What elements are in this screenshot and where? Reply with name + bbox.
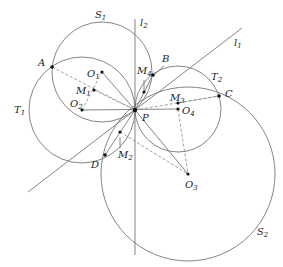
point-O1 (100, 70, 103, 73)
point-P (133, 108, 137, 112)
label-O2: O2 (70, 98, 83, 111)
label-M1: M1 (75, 85, 91, 98)
point-B (151, 73, 155, 77)
arrow-B (155, 66, 164, 74)
label-M2: M2 (117, 149, 133, 162)
label-O4: O4 (182, 105, 195, 118)
label-O1: O1 (87, 68, 100, 81)
label-A: A (37, 57, 45, 68)
label-S2: S2 (257, 226, 269, 239)
label-S1: S1 (95, 9, 106, 22)
point-M1 (92, 88, 95, 91)
label-l1: l1 (234, 37, 242, 50)
label-D: D (90, 159, 99, 170)
label-P: P (141, 112, 149, 123)
label-T1: T1 (14, 104, 25, 117)
point-M2 (118, 130, 121, 133)
geometry-diagram: S1 l2 l1 B A O1 M4 T2 C M1 M3 O2 O4 T1 P… (0, 0, 283, 267)
segment-O2-O4 (82, 109, 178, 110)
label-T2: T2 (211, 71, 223, 84)
point-M4 (142, 90, 145, 93)
label-l2: l2 (140, 17, 148, 30)
point-D (103, 153, 107, 157)
label-C: C (225, 88, 233, 99)
diagram-canvas: S1 l2 l1 B A O1 M4 T2 C M1 M3 O2 O4 T1 P… (0, 0, 283, 267)
point-O4 (176, 107, 179, 110)
label-M4: M4 (136, 65, 152, 78)
point-C (217, 94, 221, 98)
dashed-M2-O3 (120, 132, 188, 174)
point-O3 (186, 172, 189, 175)
label-B: B (161, 53, 169, 64)
segment-O1-P (102, 72, 135, 110)
point-A (50, 65, 54, 69)
label-O3: O3 (185, 179, 198, 192)
